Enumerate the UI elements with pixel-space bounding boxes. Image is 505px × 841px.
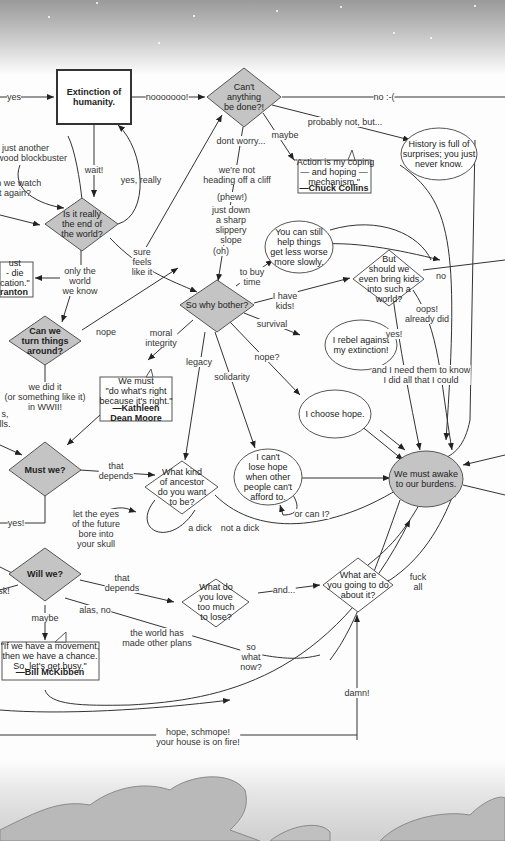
mckibben-attribution: —Bill McKibben — [16, 667, 85, 677]
edge-no-sad: no :-( — [373, 92, 394, 102]
flowchart-connectors — [0, 0, 505, 841]
edge-oh: (oh) — [213, 246, 229, 256]
edge-fuck-all: fuck all — [410, 572, 427, 592]
edge-slippery: just down a sharp slippery slope — [212, 205, 250, 245]
edge-or-can-i: or can I? — [294, 509, 329, 519]
cant-lose-hope-cloud: I can't lose hope when other people can'… — [244, 452, 292, 502]
edge-a-dick: a dick — [188, 523, 212, 533]
edge-world-plans: the world has made other plans — [122, 628, 192, 648]
must-we-node: Must we? — [24, 465, 65, 475]
edge-only-world: only the world we know — [62, 266, 97, 296]
edge-wait: wait! — [85, 165, 104, 175]
edge-alas-no: alas, no — [79, 605, 111, 615]
edge-risk-partial: isk! — [0, 586, 10, 596]
edge-i-have-kids: I have kids! — [273, 291, 298, 311]
still-help-cloud: You can still help things get less worse… — [270, 227, 328, 267]
edge-solidarity: solidarity — [214, 372, 250, 382]
kathleen-quote: We must "do what's right because it's ri… — [100, 376, 173, 406]
edge-phew: (phew!) — [217, 192, 247, 202]
edge-moral-integrity: moral integrity — [145, 328, 177, 348]
edge-survival: survival — [257, 319, 288, 329]
edge-nope: nope — [96, 327, 116, 337]
edge-legacy: legacy — [186, 357, 212, 367]
is-it-really-node: Is it really the end of the world? — [61, 209, 103, 239]
edge-watch-again: can we watch it again? — [0, 178, 41, 198]
history-cloud: History is full of surprises; you just n… — [403, 139, 476, 169]
edge-no-kids: no — [436, 271, 446, 281]
edge-maybe-will: maybe — [31, 613, 58, 623]
edge-so-what-now: so what now? — [240, 642, 262, 672]
edge-not-a-dick: not a dick — [221, 523, 260, 533]
edge-not-cliff: we're not heading off a cliff — [203, 165, 271, 185]
edge-yes-kids: yes! — [386, 329, 403, 339]
so-why-bother-node: So why bother? — [186, 300, 249, 310]
edge-that-depends-1: that depends — [99, 461, 134, 481]
chuck-collins-attribution: —Chuck Collins — [299, 183, 368, 193]
bring-kids-node: But should we even bring kids into such … — [359, 254, 420, 304]
edge-dont-worry: dont worry... — [217, 136, 266, 146]
edge-left-partial: s, lls. — [0, 409, 11, 429]
edge-eyes-future: let the eyes of the future bore into you… — [72, 509, 120, 549]
edge-yes: yes — [7, 92, 21, 102]
edge-nope-hope: nope? — [254, 352, 279, 362]
choose-hope-cloud: I choose hope. — [305, 409, 364, 419]
left-quote-attr-partial: ranton — [0, 287, 28, 297]
edge-hope-schmope: hope, schmope! your house is on fire! — [156, 727, 240, 747]
edge-to-buy-time: to buy time — [240, 267, 265, 287]
edge-maybe-top: maybe — [271, 130, 298, 140]
cant-anything-node: Can't anything be done?! — [224, 82, 264, 112]
edge-we-did-it: we did it (or something like it) in WWII… — [4, 382, 85, 412]
edge-yes-must: yes! — [8, 518, 25, 528]
edge-that-depends-2: that depends — [105, 573, 140, 593]
edge-sure-feels: sure feels like it — [132, 247, 153, 277]
edge-yes-really: yes, really — [121, 175, 162, 185]
edge-nooooooo: nooooooo! — [146, 92, 189, 102]
extinction-node: Extinction of humanity. — [67, 87, 122, 107]
awake-burdens-cloud: We must awake to our burdens. — [394, 469, 458, 489]
edge-need-them: and I need them to know I did all that I… — [372, 365, 471, 385]
going-to-do-node: What are you going to do about it? — [327, 570, 389, 600]
left-quote-partial: ust - die cation." — [0, 258, 30, 288]
edge-probably-not: probably not, but... — [308, 117, 383, 127]
kathleen-attribution: —Kathleen Dean Moore — [110, 403, 162, 423]
edge-damn: damn! — [344, 688, 369, 698]
rebel-cloud: I rebel against my extinction! — [333, 335, 390, 355]
will-we-node: Will we? — [27, 569, 63, 579]
can-we-turn-node: Can we turn things around? — [22, 326, 69, 356]
edge-oops: oops! already did — [405, 304, 449, 324]
love-node: What do you love too much to lose? — [197, 582, 234, 622]
edge-hollywood: nope, just another Hollywood blockbuster — [0, 143, 67, 163]
ancestor-node: What kind of ancestor do you want to be? — [158, 467, 207, 507]
edge-and: and... — [273, 585, 296, 595]
